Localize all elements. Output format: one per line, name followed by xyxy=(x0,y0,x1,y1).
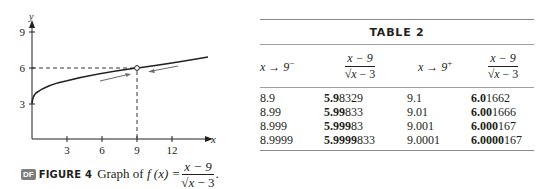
header-x-left: x → 9− xyxy=(260,58,324,75)
table-row: 8.999 5.99983 9.001 6.000167 xyxy=(260,119,534,133)
header-x-right: x → 9+ xyxy=(396,58,472,75)
fraction-denominator: √x − 3 xyxy=(181,175,214,189)
y-tick-9: 9 xyxy=(20,26,26,38)
table-row: 8.9999 5.9999833 9.0001 6.0000167 xyxy=(260,133,534,147)
x-axis-label: x xyxy=(210,133,216,145)
y-tick-6: 6 xyxy=(20,62,26,74)
axes xyxy=(32,24,208,139)
header-f-left: x − 9 √x − 3 xyxy=(325,52,395,81)
tick-labels: 3 6 9 12 9 6 3 x y xyxy=(20,11,217,156)
function-lhs: f (x) = xyxy=(147,166,180,182)
figure-caption: DF FIGURE 4 Graph of f (x) = x − 9 √x − … xyxy=(21,160,219,188)
y-tick-3: 3 xyxy=(20,98,26,110)
x-tick-3: 3 xyxy=(64,144,70,156)
x-tick-6: 6 xyxy=(99,144,105,156)
df-badge-icon: DF xyxy=(21,169,36,180)
x-tick-12: 12 xyxy=(167,144,178,156)
header-f-right: x − 9 √x − 3 xyxy=(473,52,533,81)
table-title: TABLE 2 xyxy=(260,20,534,44)
ticks xyxy=(29,32,172,142)
figure-label: FIGURE 4 xyxy=(39,169,92,180)
function-fraction: x − 9 √x − 3 xyxy=(181,160,214,189)
x-tick-9: 9 xyxy=(134,144,140,156)
fraction-numerator: x − 9 xyxy=(182,160,214,175)
table-2: TABLE 2 x → 9− x − 9 √x − 3 x → 9+ x − 9… xyxy=(260,19,534,151)
table-header: x → 9− x − 9 √x − 3 x → 9+ x − 9 √x − 3 xyxy=(260,45,534,87)
y-axis-label: y xyxy=(28,11,34,22)
arrow-right-icon xyxy=(125,73,131,77)
table-row: 8.99 5.99833 9.01 6.001666 xyxy=(260,105,534,119)
dashed-guides xyxy=(32,68,137,139)
caption-text: Graph of xyxy=(97,166,144,182)
table-row: 8.9 5.98329 9.1 6.01662 xyxy=(260,91,534,105)
table-body: 8.9 5.98329 9.1 6.01662 8.99 5.99833 9.0… xyxy=(260,88,534,150)
hole-marker xyxy=(135,66,140,71)
function-curve xyxy=(32,57,208,103)
caption-period: . xyxy=(216,166,219,182)
function-graph: 3 6 9 12 9 6 3 x y xyxy=(0,0,230,160)
arrow-left-icon xyxy=(148,69,155,73)
table-bottom-rule xyxy=(260,150,534,151)
